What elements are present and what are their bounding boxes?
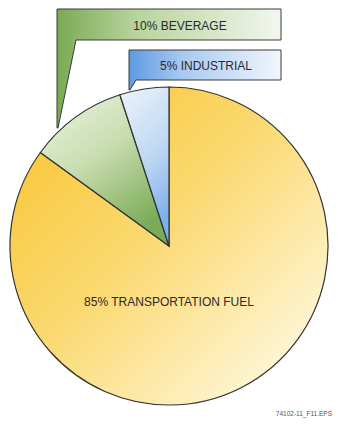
pie-chart: 10% BEVERAGE 5% INDUSTRIAL 85% TRANSPORT…	[0, 0, 339, 426]
beverage-label: 10% BEVERAGE	[133, 19, 226, 33]
pie-slices	[10, 87, 328, 405]
transportation-label: 85% TRANSPORTATION FUEL	[84, 295, 254, 309]
industrial-label: 5% INDUSTRIAL	[160, 59, 252, 73]
file-id-label: 74102-11_F11.EPS	[276, 410, 333, 418]
